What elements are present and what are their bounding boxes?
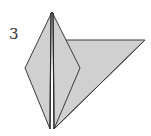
- folded-paper-figure: [0, 0, 151, 136]
- origami-step-diagram: 3: [0, 0, 151, 136]
- diamond-left-half: [25, 12, 52, 129]
